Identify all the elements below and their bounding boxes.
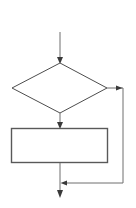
decision-diamond-node — [12, 63, 107, 113]
arrowhead-left-icon — [61, 181, 68, 186]
arrowhead-right-icon — [116, 86, 123, 91]
figure-caption — [0, 199, 136, 208]
flowchart-figure — [0, 0, 136, 208]
edge-process-exit — [57, 163, 63, 198]
process-rectangle-node — [12, 129, 108, 163]
flowchart-canvas — [0, 0, 136, 208]
arrowhead-down-icon — [57, 190, 63, 198]
edge-decision-process — [57, 113, 63, 129]
edge-entry-decision — [57, 32, 63, 64]
